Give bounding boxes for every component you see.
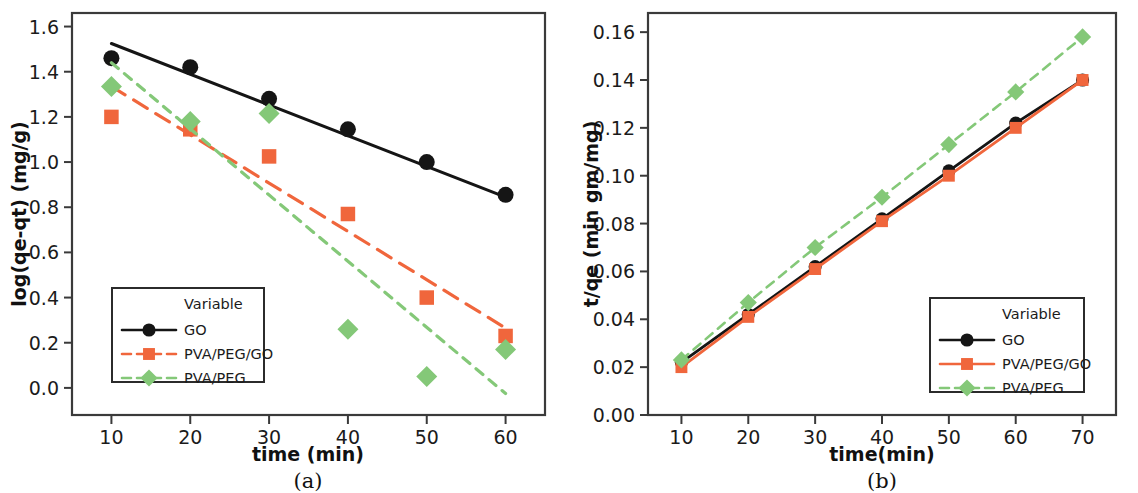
data-point [1010,122,1022,134]
data-point [742,311,754,323]
y-tick-label: 0.00 [593,404,635,426]
legend-label-pva-peg-go: PVA/PEG/GO [1002,356,1091,372]
y-tick-label: 0.6 [29,241,59,263]
data-point [420,290,435,305]
legend-label-go: GO [1002,332,1025,348]
legend-label-pva-peg-go: PVA/PEG/GO [184,346,273,362]
trend-line [111,43,505,197]
data-point [943,170,955,182]
y-tick-label: 1.0 [29,151,59,173]
legend-b[interactable]: VariableGOPVA/PEG/GOPVA/PEG [930,298,1091,397]
panel-caption-b: (b) [867,469,897,493]
data-point [104,110,119,125]
y-axis-tick-labels-a: 0.00.20.40.60.81.01.21.41.6 [29,16,59,399]
x-axis-tick-marks-a [111,415,505,424]
y-tick-label: 0.4 [29,287,59,309]
legend-marker-circle-icon [142,323,155,336]
series-go [103,43,513,202]
data-point [498,187,514,203]
x-tick-label: 10 [99,426,123,448]
legend-a[interactable]: VariableGOPVA/PEG/GOPVA/PEG [112,288,273,387]
data-point [416,366,437,387]
legend-label-go: GO [184,322,207,338]
figure-root: 0.00.20.40.60.81.01.21.41.6 102030405060… [0,0,1138,493]
data-point [259,103,280,124]
y-tick-label: 0.14 [593,69,635,91]
chart-panel-a: 0.00.20.40.60.81.01.21.41.6 102030405060… [0,0,570,493]
panel-caption-a: (a) [294,469,323,493]
y-axis-tick-marks-a [64,27,72,388]
x-tick-label: 50 [415,426,439,448]
data-point [419,154,435,170]
data-point [101,76,122,97]
x-axis-tick-marks-b [681,415,1082,424]
legend-marker-circle-icon [960,333,973,346]
data-point [873,189,890,206]
y-tick-label: 1.2 [29,106,59,128]
x-tick-label: 60 [493,426,517,448]
y-tick-label: 0.16 [593,21,635,43]
x-tick-label: 20 [736,426,760,448]
y-tick-label: 1.6 [29,16,59,38]
legend-marker-square-icon [961,358,973,370]
data-point [876,215,888,227]
x-tick-label: 70 [1070,426,1094,448]
legend-label-pva-peg: PVA/PEG [1002,380,1064,396]
data-point [809,263,821,275]
x-axis-title-b: time(min) [829,443,934,465]
data-point [495,339,516,360]
x-tick-label: 50 [937,426,961,448]
x-tick-label: 60 [1004,426,1028,448]
legend-label-pva-peg: PVA/PEG [184,370,246,386]
data-point [182,59,198,75]
legend-title: Variable [184,296,243,312]
y-axis-title-b: t/qe (min gm/mg) [580,121,602,308]
x-tick-label: 10 [669,426,693,448]
y-tick-label: 0.02 [593,356,635,378]
legend-title: Variable [1002,306,1061,322]
y-tick-label: 0.2 [29,332,59,354]
data-point [337,319,358,340]
x-tick-label: 20 [178,426,202,448]
data-point [1077,74,1089,86]
x-axis-title-a: time (min) [252,443,364,465]
y-tick-label: 0.0 [29,377,59,399]
y-axis-tick-marks-b [640,32,648,415]
y-tick-label: 0.04 [593,308,635,330]
chart-panel-b: 0.000.020.040.060.080.100.120.140.16 102… [568,0,1138,493]
data-point [1074,28,1091,45]
y-tick-label: 1.4 [29,61,59,83]
y-tick-label: 0.8 [29,196,59,218]
data-point [340,121,356,137]
data-point [341,207,356,222]
x-tick-label: 30 [803,426,827,448]
legend-marker-square-icon [143,348,155,360]
y-axis-title-a: log(qe-qt) (mg/g) [8,121,30,307]
data-point [262,149,277,164]
